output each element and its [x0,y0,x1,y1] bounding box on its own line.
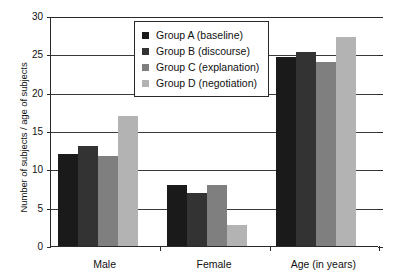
y-axis-tick-mark [47,94,51,95]
legend-swatch-icon [142,64,149,71]
legend-swatch-icon [142,32,149,39]
y-axis-tick-mark [47,170,51,171]
x-axis-group-label: Age (in years) [269,258,378,270]
bar [78,146,98,246]
y-axis-tick-mark [47,55,51,56]
y-axis-tick-mark-right [378,132,383,133]
y-axis-tick-label: 15 [17,127,43,137]
y-axis-tick-label: 25 [17,50,43,60]
legend-item: Group D (negotiation) [142,75,259,91]
y-axis-tick-label: 0 [17,242,43,252]
x-axis-tick-mark [379,246,380,251]
bar [167,185,187,246]
legend-swatch-icon [142,48,149,55]
bar [227,225,247,246]
gridline [51,17,379,18]
y-axis-tick-mark-right [378,17,383,18]
y-axis-tick-mark [47,132,51,133]
y-axis-tick-label: 10 [17,165,43,175]
bar [336,37,356,246]
y-axis-tick-mark-right [378,94,383,95]
x-axis-group-label: Male [50,258,159,270]
y-axis-tick-mark [47,209,51,210]
y-axis-tick-mark-right [378,170,383,171]
x-axis-tick-mark [270,246,271,251]
y-axis-tick-label: 30 [17,12,43,22]
bar [118,116,138,246]
legend-item-label: Group B (discourse) [156,45,250,57]
y-axis-tick-mark-right [378,55,383,56]
bar [316,62,336,246]
bar [296,52,316,246]
y-axis-tick-label: 5 [17,204,43,214]
legend-swatch-icon [142,80,149,87]
legend-item-label: Group A (baseline) [156,29,243,41]
x-axis-group-label: Female [159,258,268,270]
bar [207,185,227,246]
bar [98,156,118,246]
bar-chart: Number of subjects / age of subjects 051… [0,0,395,277]
bar [276,57,296,246]
y-axis-tick-mark [47,247,51,248]
bar [187,193,207,246]
legend-item: Group B (discourse) [142,43,259,59]
legend-item: Group A (baseline) [142,27,259,43]
legend-item-label: Group D (negotiation) [156,77,257,89]
y-axis-tick-label: 20 [17,89,43,99]
x-axis-tick-mark [160,246,161,251]
legend-item-label: Group C (explanation) [156,61,259,73]
bar [58,154,78,246]
y-axis-tick-mark-right [378,209,383,210]
legend-item: Group C (explanation) [142,59,259,75]
y-axis-tick-mark [47,17,51,18]
legend: Group A (baseline)Group B (discourse)Gro… [134,21,269,97]
